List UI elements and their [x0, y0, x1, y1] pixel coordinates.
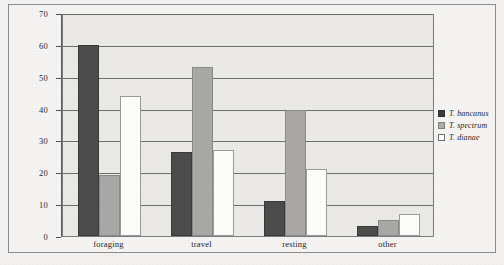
x-axis-tick-label: other [378, 239, 396, 249]
bar [99, 175, 120, 236]
empty-white-square-icon [438, 134, 445, 141]
y-axis-tick-label: 0 [44, 232, 48, 242]
bar-group [357, 15, 420, 236]
legend-label: T. spectrum [449, 121, 487, 130]
bar [357, 226, 378, 236]
y-axis-tick-label: 70 [39, 9, 48, 19]
x-axis-tick-label: resting [282, 239, 307, 249]
bar [378, 220, 399, 236]
bar [399, 214, 420, 236]
y-axis-tick-label: 20 [39, 168, 48, 178]
plot-area [62, 14, 434, 237]
y-axis-labels: 010203040506070 [0, 0, 56, 265]
y-axis-tick-mark [56, 237, 61, 238]
bar [171, 152, 192, 236]
bar [264, 201, 285, 236]
legend-label: T. dianae [449, 133, 480, 142]
x-axis-tick-label: travel [191, 239, 212, 249]
x-axis-labels: foragingtravelrestingother [62, 239, 434, 255]
y-axis-tick-label: 10 [39, 200, 48, 210]
bar-group [264, 15, 327, 236]
y-axis-tick-label: 50 [39, 73, 48, 83]
x-axis-tick-label: foraging [93, 239, 123, 249]
bar [120, 96, 141, 236]
y-axis-tick-label: 60 [39, 41, 48, 51]
legend-item: T. spectrum [438, 120, 496, 131]
bar-group [171, 15, 234, 236]
bar [213, 150, 234, 236]
bar-group [78, 15, 141, 236]
bar [306, 169, 327, 236]
y-axis-tick-label: 40 [39, 105, 48, 115]
chart-figure: 010203040506070 foragingtravelrestingoth… [0, 0, 504, 265]
filled-dark-square-icon [438, 110, 445, 117]
bar [78, 45, 99, 236]
bar [285, 110, 306, 236]
legend-item: T. dianae [438, 132, 496, 143]
legend-label: T. bancanus [449, 109, 489, 118]
bar [192, 67, 213, 236]
chart-legend: T. bancanusT. spectrumT. dianae [438, 108, 496, 144]
y-axis-tick-label: 30 [39, 136, 48, 146]
legend-item: T. bancanus [438, 108, 496, 119]
filled-gray-square-icon [438, 122, 445, 129]
